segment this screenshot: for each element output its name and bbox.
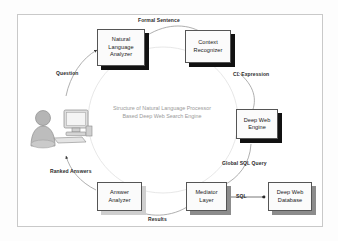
edge-label-question: Question — [56, 70, 78, 76]
desktop-computer-icon — [54, 110, 92, 143]
node-label-line: Deep Web — [244, 117, 271, 124]
edge-cl-expression — [238, 72, 254, 112]
user-person-icon — [31, 111, 55, 149]
node-label-line: Language — [108, 44, 133, 51]
edge-label-formal-sentence: Formal Sentence — [138, 17, 180, 23]
node-answer-analyzer[interactable]: Answer Analyzer — [97, 182, 142, 211]
node-label-line: Natural — [108, 36, 133, 43]
node-label-line: Context — [194, 39, 223, 46]
node-label-line: Mediator — [195, 189, 217, 196]
node-context-recognizer[interactable]: Context Recognizer — [185, 30, 231, 63]
edge-label-results: Results — [148, 216, 167, 222]
node-label-line: Analyzer — [108, 51, 133, 58]
caption-line-1: Structure of Natural Language Processor — [92, 104, 232, 112]
node-label-line: Analyzer — [108, 197, 130, 204]
edge-label-ranked-answers: Ranked Answers — [50, 168, 92, 174]
caption-line-2: Based Deep Web Search Engine — [92, 112, 232, 120]
diagram-caption: Structure of Natural Language Processor … — [92, 104, 232, 121]
diagram-canvas: Structure of Natural Language Processor … — [0, 0, 338, 241]
node-label-line: Engine — [244, 124, 271, 131]
node-label-line: Layer — [195, 197, 217, 204]
node-deep-web-engine[interactable]: Deep Web Engine — [236, 109, 278, 139]
node-natural-language-analyzer[interactable]: Natural Language Analyzer — [97, 29, 145, 66]
node-mediator-layer[interactable]: Mediator Layer — [186, 182, 227, 211]
node-label-line: Database — [277, 197, 304, 204]
node-label-line: Answer — [108, 189, 130, 196]
node-label-line: Deep Web — [277, 189, 304, 196]
edge-label-sql: SQL — [236, 193, 247, 199]
edge-label-global-sql-query: Global SQL Query — [222, 160, 267, 166]
actor-group — [26, 96, 98, 154]
port-dot-db — [263, 196, 266, 199]
node-deep-web-database[interactable]: Deep Web Database — [268, 182, 312, 211]
edge-label-cl-expression: CL Expression — [233, 71, 269, 77]
node-label-line: Recognizer — [194, 47, 223, 54]
